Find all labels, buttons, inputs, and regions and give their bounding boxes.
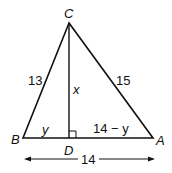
vertex-a-label: A: [155, 133, 165, 148]
segment-bd-label: y: [41, 122, 50, 137]
side-ca-label: 15: [116, 73, 130, 88]
side-bc-label: 13: [28, 73, 42, 88]
arrow-left-icon: [24, 157, 31, 162]
segment-da-label: 14 − y: [93, 121, 129, 136]
base-length-label: 14: [81, 152, 95, 167]
vertex-b-label: B: [11, 132, 20, 147]
base-dimension-arrow: 14: [24, 152, 155, 167]
arrow-right-icon: [148, 157, 155, 162]
vertex-c-label: C: [64, 6, 74, 21]
vertex-d-label: D: [64, 143, 73, 158]
altitude-x-label: x: [72, 82, 80, 97]
triangle-diagram: C B A D 13 15 x y 14 − y 14: [0, 0, 172, 173]
right-angle-marker: [69, 131, 76, 138]
triangle-abc: [23, 23, 153, 138]
